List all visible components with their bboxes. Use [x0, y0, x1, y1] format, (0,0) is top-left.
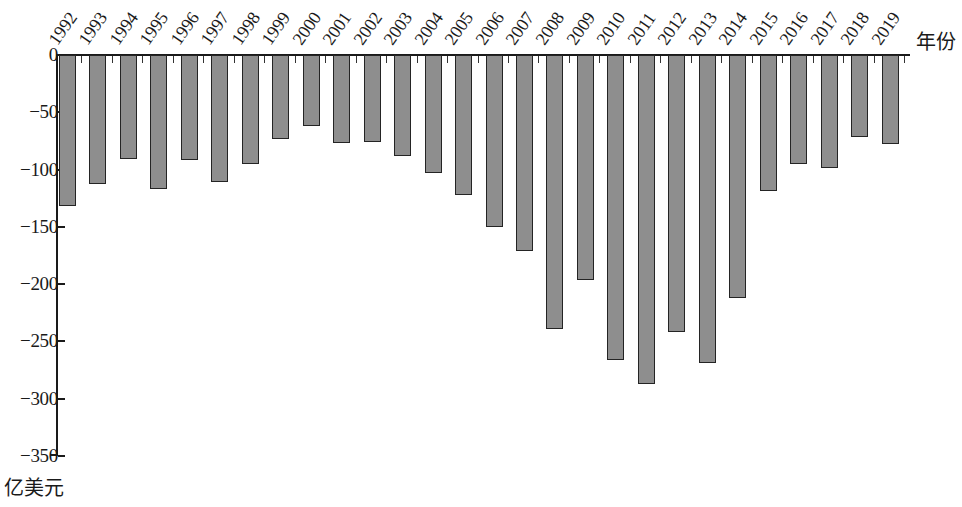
- bar: [821, 55, 838, 168]
- y-axis-title: 亿美元: [4, 478, 64, 498]
- bar: [699, 55, 716, 363]
- bar: [851, 55, 868, 137]
- bar: [120, 55, 137, 159]
- bar: [211, 55, 228, 182]
- bar: [89, 55, 106, 184]
- bar: [607, 55, 624, 360]
- bar: [150, 55, 167, 189]
- bar: [729, 55, 746, 298]
- bar: [394, 55, 411, 156]
- x-axis-title: 年份: [916, 32, 956, 52]
- bar: [303, 55, 320, 126]
- bar: [760, 55, 777, 191]
- bar: [486, 55, 503, 227]
- bar: [272, 55, 289, 139]
- bar: [790, 55, 807, 164]
- bar: [577, 55, 594, 280]
- bar: [455, 55, 472, 195]
- bar: [59, 55, 76, 206]
- bar: [181, 55, 198, 160]
- bar: [882, 55, 899, 144]
- bar: [516, 55, 533, 251]
- bar: [546, 55, 563, 329]
- bar: [364, 55, 381, 142]
- bar: [242, 55, 259, 164]
- bar: [333, 55, 350, 143]
- bar-chart: 0−50−100−150−200−250−300−350 19921993199…: [0, 0, 962, 507]
- bar-series: [0, 0, 962, 507]
- bar: [638, 55, 655, 384]
- bar: [425, 55, 442, 173]
- bar: [668, 55, 685, 332]
